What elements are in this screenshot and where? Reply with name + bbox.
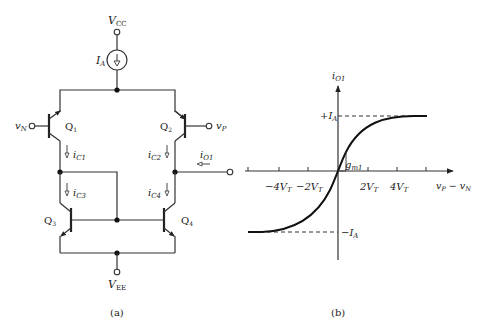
tick-label-neg4vt: −4VT xyxy=(265,181,293,194)
q2-label: Q2 xyxy=(160,121,172,133)
ic3-label: iC3 xyxy=(73,187,87,200)
io1-label: iO1 xyxy=(200,149,213,162)
vee-label: VEE xyxy=(108,278,126,292)
q4-label: Q4 xyxy=(181,215,193,227)
transfer-characteristic-chart: iO1 −4VT −2VT 2VT 4VT vP − vN +IA −IA gm… xyxy=(245,70,471,318)
transistor-q1: vN Q1 xyxy=(15,111,77,172)
vcc-terminal-icon xyxy=(114,29,120,35)
vee-terminal-icon xyxy=(114,269,120,275)
caption-a: (a) xyxy=(110,307,124,318)
y-axis-label: iO1 xyxy=(332,70,345,83)
tick-label-neg2vt: −2VT xyxy=(296,181,324,194)
x-axis-label: vP − vN xyxy=(436,180,471,193)
transistor-q3: Q3 xyxy=(44,203,71,253)
vp-label: vP xyxy=(216,120,227,133)
gm1-label: gm1 xyxy=(345,159,363,172)
vcc-label: VCC xyxy=(108,14,127,28)
ic2-label: iC2 xyxy=(148,149,162,162)
caption-b: (b) xyxy=(331,307,345,318)
vn-label: vN xyxy=(15,120,28,133)
transistor-q4: Q4 xyxy=(164,203,193,253)
ic4-label: iC4 xyxy=(148,187,161,200)
junction-dot xyxy=(114,217,119,222)
tick-label-4vt: 4VT xyxy=(389,181,410,194)
ic1-label: iC1 xyxy=(73,149,86,162)
vp-terminal-icon xyxy=(206,123,212,129)
circuit-diagram: VCC IA vN Q1 xyxy=(15,14,233,318)
transistor-q2: vP Q2 xyxy=(160,111,227,172)
tick-label-2vt: 2VT xyxy=(359,181,380,194)
neg-ia-label: −IA xyxy=(341,227,358,240)
q3-label: Q3 xyxy=(44,215,56,227)
figure-canvas: VCC IA vN Q1 xyxy=(0,0,479,335)
current-source-label: IA xyxy=(95,54,105,68)
vn-terminal-icon xyxy=(29,123,35,129)
junction-dot xyxy=(114,87,119,92)
output-terminal-icon xyxy=(227,169,233,175)
q1-label: Q1 xyxy=(65,121,77,133)
pos-ia-label: +IA xyxy=(320,110,337,123)
